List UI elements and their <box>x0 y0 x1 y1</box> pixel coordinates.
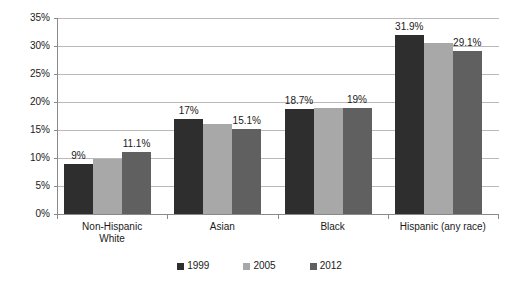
y-axis-tick-label: 20% <box>30 97 50 107</box>
legend-item-1999[interactable]: 1999 <box>177 261 209 271</box>
y-axis-tick-label: 25% <box>30 69 50 79</box>
bar-2012-hispanic-any-race[interactable] <box>453 51 482 214</box>
x-axis-category-line: Hispanic (any race) <box>388 221 498 233</box>
bar-value-label: 18.7% <box>285 96 313 106</box>
bar-group: 31.9%29.1% <box>388 18 498 214</box>
bar-slot <box>314 18 343 214</box>
y-axis-tick-label: 15% <box>30 125 50 135</box>
bar-slot: 15.1% <box>232 18 261 214</box>
x-axis-tick-mark <box>57 214 58 219</box>
y-axis-tick-label: 30% <box>30 41 50 51</box>
bar-slot: 11.1% <box>122 18 151 214</box>
x-axis-category-line: White <box>57 233 167 245</box>
bar-1999-asian[interactable] <box>174 119 203 214</box>
x-axis-category-label: Hispanic (any race) <box>388 221 498 245</box>
chart-legend: 199920052012 <box>0 261 519 271</box>
bar-groups: 9%11.1%17%15.1%18.7%19%31.9%29.1% <box>57 18 498 214</box>
bar-slot: 17% <box>174 18 203 214</box>
bar-slot <box>203 18 232 214</box>
bar-2012-non-hispanic-white[interactable] <box>122 152 151 214</box>
bar-2005-black[interactable] <box>314 108 343 214</box>
legend-swatch-icon <box>177 263 184 270</box>
bar-slot <box>424 18 453 214</box>
x-axis-category-line: Non-Hispanic <box>57 221 167 233</box>
y-axis-tick-label: 0% <box>36 209 50 219</box>
legend-item-2005[interactable]: 2005 <box>243 261 275 271</box>
legend-label: 2005 <box>253 261 275 271</box>
bar-1999-hispanic-any-race[interactable] <box>395 35 424 214</box>
bar-value-label: 15.1% <box>233 116 261 126</box>
bar-group: 18.7%19% <box>278 18 388 214</box>
bar-group: 17%15.1% <box>167 18 277 214</box>
x-axis-labels: Non-HispanicWhiteAsianBlackHispanic (any… <box>57 221 498 245</box>
legend-label: 2012 <box>320 261 342 271</box>
bar-2005-asian[interactable] <box>203 124 232 214</box>
bar-slot <box>93 18 122 214</box>
bar-value-label: 9% <box>71 151 85 161</box>
bar-2005-hispanic-any-race[interactable] <box>424 43 453 214</box>
legend-swatch-icon <box>243 263 250 270</box>
x-axis-tick-mark <box>498 214 499 219</box>
bar-value-label: 29.1% <box>453 38 481 48</box>
x-axis-category-label: Non-HispanicWhite <box>57 221 167 245</box>
y-axis-tick-label: 5% <box>36 181 50 191</box>
x-axis-tick-mark <box>388 214 389 219</box>
legend-label: 1999 <box>187 261 209 271</box>
x-axis-category-label: Asian <box>167 221 277 245</box>
legend-item-2012[interactable]: 2012 <box>310 261 342 271</box>
x-axis-category-line: Black <box>278 221 388 233</box>
bar-2005-non-hispanic-white[interactable] <box>93 159 122 214</box>
bar-1999-black[interactable] <box>285 109 314 214</box>
bar-value-label: 17% <box>179 106 199 116</box>
x-axis-tick-mark <box>167 214 168 219</box>
bar-chart: 0%5%10%15%20%25%30%35% 9%11.1%17%15.1%18… <box>0 0 519 284</box>
bar-slot: 29.1% <box>453 18 482 214</box>
bar-value-label: 31.9% <box>395 22 423 32</box>
bar-1999-non-hispanic-white[interactable] <box>64 164 93 214</box>
x-axis-tick-mark <box>278 214 279 219</box>
y-axis-labels: 0%5%10%15%20%25%30%35% <box>0 18 50 214</box>
x-axis-category-label: Black <box>278 221 388 245</box>
x-axis-category-line: Asian <box>167 221 277 233</box>
bar-slot: 18.7% <box>285 18 314 214</box>
bar-value-label: 11.1% <box>123 139 151 149</box>
bar-slot: 31.9% <box>395 18 424 214</box>
bar-slot: 9% <box>64 18 93 214</box>
y-axis-tick-label: 10% <box>30 153 50 163</box>
bar-group: 9%11.1% <box>57 18 167 214</box>
bar-2012-asian[interactable] <box>232 129 261 214</box>
x-axis-ticks <box>57 214 498 219</box>
y-axis-tick-label: 35% <box>30 13 50 23</box>
legend-swatch-icon <box>310 263 317 270</box>
bar-value-label: 19% <box>347 95 367 105</box>
bar-2012-black[interactable] <box>343 108 372 214</box>
bar-slot: 19% <box>343 18 372 214</box>
